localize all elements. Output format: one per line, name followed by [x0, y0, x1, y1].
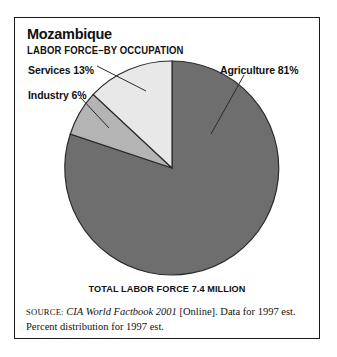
slice-label-industry: Industry 6% [28, 89, 86, 101]
source-label: SOURCE: [26, 307, 64, 317]
slice-label-services: Services 13% [28, 64, 94, 76]
source-note: SOURCE: CIA World Factbook 2001 [Online]… [26, 305, 309, 333]
total-labor-force-caption: TOTAL LABOR FORCE 7.4 MILLION [21, 283, 313, 294]
source-work-title: CIA World Factbook 2001 [66, 306, 177, 317]
figure-panel: Mozambique LABOR FORCE–BY OCCUPATION Ser… [14, 17, 320, 339]
slice-label-agriculture: Agriculture 81% [220, 64, 298, 76]
